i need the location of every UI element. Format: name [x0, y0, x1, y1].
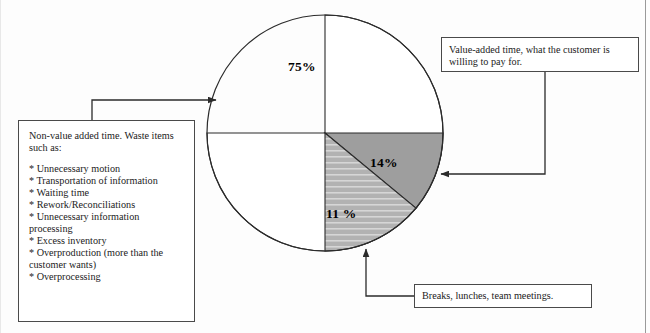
callout-breaks: Breaks, lunches, team meetings.: [414, 284, 592, 308]
pie-label-breaks: 11 %: [326, 206, 356, 222]
connector-non-value-added: [92, 100, 216, 120]
connector-value-added: [441, 72, 545, 174]
pie-label-non-value-added: 75%: [288, 59, 316, 75]
callout-non-value-added: Non-value added time. Waste items such a…: [18, 120, 195, 322]
figure-canvas: 75% 14% 11 % Non-value added time. Waste…: [0, 0, 650, 333]
connector-breaks: [366, 249, 414, 296]
callout-breaks-text: Breaks, lunches, team meetings.: [422, 290, 584, 302]
callout-non-value-added-heading: Non-value added time. Waste items such a…: [29, 130, 185, 154]
callout-value-added: Value-added time, what the customer is w…: [441, 37, 639, 72]
callout-non-value-added-items: * Unnecessary motion * Transportation of…: [29, 163, 185, 283]
pie-label-value-added: 14%: [370, 155, 398, 171]
callout-value-added-text: Value-added time, what the customer is w…: [449, 44, 631, 68]
